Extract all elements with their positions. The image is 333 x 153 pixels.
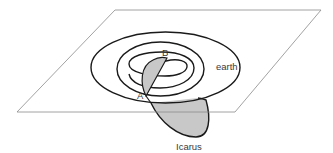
label-icarus: Icarus	[176, 141, 202, 152]
icarus-orbit-upper-lobe	[142, 57, 167, 96]
label-point-b: B	[162, 47, 168, 58]
label-point-a: A	[137, 90, 144, 101]
label-earth: earth	[216, 61, 238, 72]
icarus-orbit-lower-lobe	[151, 98, 209, 137]
icarus-orbit-diagram: earth Icarus A B	[0, 0, 333, 153]
